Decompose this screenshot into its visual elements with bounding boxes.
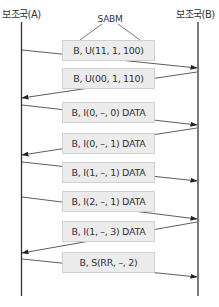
frame-box-7: B, I(1, –, 3) DATA xyxy=(62,221,155,242)
sabm-annotation: SABM xyxy=(90,14,130,24)
frame-box-2: B, U(00, 1, 110) xyxy=(62,68,155,89)
frame-box-3: B, I(0, –, 0) DATA xyxy=(62,102,155,123)
frame-box-8: B, S(RR, –, 2) xyxy=(62,252,155,273)
frame-box-1: B, U(11, 1, 100) xyxy=(62,40,155,61)
frame-box-5: B, I(1, –, 1) DATA xyxy=(62,162,155,183)
frame-box-6: B, I(2, –, 1) DATA xyxy=(62,191,155,212)
frame-box-4: B, I(0, –, 1) DATA xyxy=(62,133,155,154)
